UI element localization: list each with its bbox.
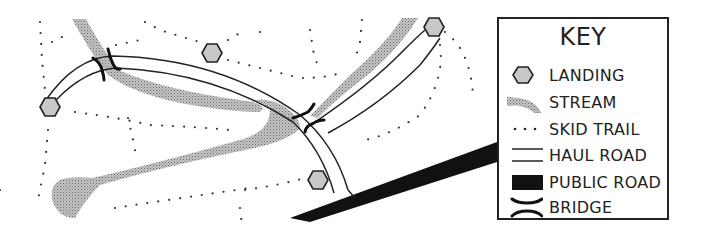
dotted-line-icon (507, 118, 543, 140)
key-title: KEY (499, 23, 667, 51)
key-item-landing: LANDING (507, 64, 625, 86)
key-label-landing: LANDING (549, 66, 625, 85)
landing-1 (40, 98, 60, 116)
key-label-haul-road: HAUL ROAD (549, 146, 647, 165)
landing-2 (202, 44, 222, 62)
key-label-skid-trail: SKID TRAIL (549, 120, 640, 139)
key-item-bridge: BRIDGE (507, 196, 612, 218)
bridge-icon (507, 196, 543, 218)
landing-3 (424, 18, 444, 36)
key-item-haul-road: HAUL ROAD (507, 144, 647, 166)
hexagon-icon (507, 64, 543, 86)
landing-4 (308, 171, 328, 189)
stream-icon (507, 91, 543, 113)
black-bar-icon (507, 171, 543, 193)
key-label-stream: STREAM (549, 93, 617, 112)
key-label-bridge: BRIDGE (549, 198, 612, 217)
key-item-public-road: PUBLIC ROAD (507, 171, 661, 193)
map-key-legend: KEY LANDING STREAM SKID TRAIL HAUL ROAD … (497, 17, 669, 220)
key-label-public-road: PUBLIC ROAD (549, 173, 661, 192)
stream (52, 18, 418, 218)
double-line-icon (507, 144, 543, 166)
key-item-skid-trail: SKID TRAIL (507, 118, 640, 140)
key-item-stream: STREAM (507, 91, 617, 113)
